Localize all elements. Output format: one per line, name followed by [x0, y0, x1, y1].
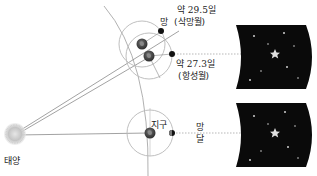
sky-panel-bottom [236, 103, 312, 167]
diagram-canvas [0, 0, 317, 176]
earth-label: 지구 [151, 120, 167, 130]
earth-icon-top-1 [137, 39, 148, 50]
sidereal-name-label: (항성월) [178, 71, 209, 81]
moon-label: 달 [196, 134, 204, 144]
earth-orbit-arc [104, 6, 148, 176]
moon-icon-sidereal [169, 51, 175, 57]
full-moon-label-top: 망 [160, 17, 168, 27]
sidereal-period-label: 약 27.3일 [176, 59, 215, 69]
moon-orbit-diagram: 약 29.5일 망 (삭망월) 약 27.3일 (항성월) 지구 망 달 태양 [0, 0, 317, 176]
synodic-name-label: (삭망월) [174, 17, 205, 27]
moon-icon-bottom [169, 130, 175, 136]
sun-label: 태양 [4, 156, 20, 166]
moon-icon-synodic [158, 28, 164, 34]
earth-icon-top-2 [144, 51, 155, 62]
sun-icon [4, 123, 26, 145]
sky-panel-top [236, 25, 312, 89]
synodic-period-label: 약 29.5일 [177, 5, 216, 15]
full-moon-label-bottom: 망 [196, 122, 204, 132]
